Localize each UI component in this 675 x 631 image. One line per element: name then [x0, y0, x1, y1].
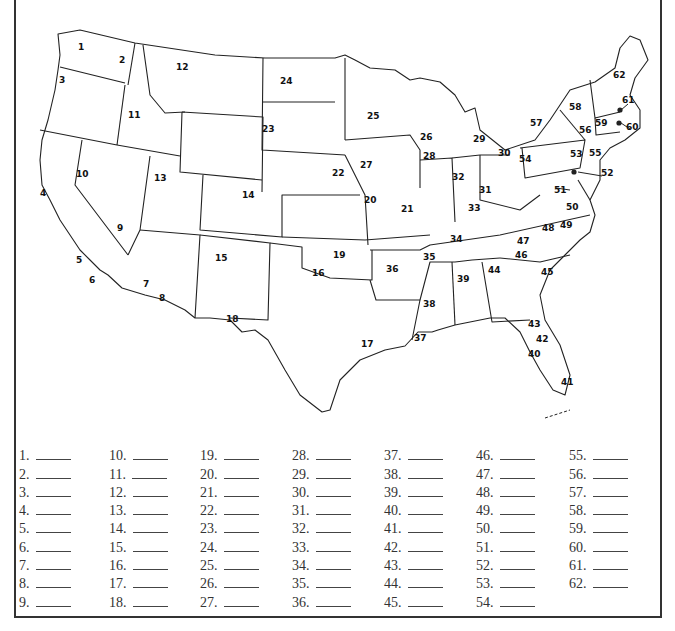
answer-blank[interactable]: [224, 495, 259, 497]
answer-blank[interactable]: [593, 531, 628, 533]
answer-blank[interactable]: [500, 495, 535, 497]
answer-blank[interactable]: [500, 513, 535, 515]
answer-number: 58.: [569, 503, 587, 519]
answer-blank[interactable]: [36, 568, 71, 570]
answer-blank[interactable]: [593, 568, 628, 570]
answer-number: 39.: [384, 485, 402, 501]
answer-blank[interactable]: [36, 550, 71, 552]
answer-blank[interactable]: [133, 605, 168, 607]
map-label: 24: [280, 77, 293, 86]
answer-blank[interactable]: [408, 495, 443, 497]
answer-blank[interactable]: [408, 550, 443, 552]
map-label: 50: [566, 203, 579, 212]
answer-row: 12.: [109, 483, 168, 501]
answer-blank[interactable]: [500, 458, 535, 460]
answer-row: 8.: [19, 574, 71, 592]
answer-blank[interactable]: [36, 586, 71, 588]
map-label: 20: [364, 196, 377, 205]
answer-row: 6.: [19, 537, 71, 555]
answer-blank[interactable]: [36, 513, 71, 515]
answer-number: 33.: [292, 540, 310, 556]
answer-blank[interactable]: [133, 531, 168, 533]
answer-blank[interactable]: [36, 495, 71, 497]
answer-row: 10.: [109, 446, 168, 464]
answer-blank[interactable]: [500, 531, 535, 533]
answer-blank[interactable]: [224, 458, 259, 460]
answer-number: 52.: [476, 558, 494, 574]
answer-blank[interactable]: [408, 568, 443, 570]
answer-blank[interactable]: [500, 605, 535, 607]
answer-number: 3.: [19, 485, 30, 501]
answer-row: 52.: [476, 556, 535, 574]
answer-blank[interactable]: [133, 495, 168, 497]
answer-blank[interactable]: [224, 568, 259, 570]
answer-blank[interactable]: [408, 458, 443, 460]
answer-blank[interactable]: [408, 477, 443, 479]
answer-blank[interactable]: [36, 605, 71, 607]
answer-blank[interactable]: [316, 513, 351, 515]
answer-blank[interactable]: [316, 477, 351, 479]
answer-blank[interactable]: [593, 477, 628, 479]
answer-blank[interactable]: [593, 586, 628, 588]
answer-blank[interactable]: [133, 458, 168, 460]
answer-row: 57.: [569, 483, 628, 501]
answer-blank[interactable]: [224, 477, 259, 479]
answer-number: 2.: [19, 467, 30, 483]
answer-number: 43.: [384, 558, 402, 574]
map-label: 27: [360, 161, 373, 170]
answer-blank[interactable]: [133, 586, 168, 588]
answer-blank[interactable]: [133, 568, 168, 570]
answer-blank[interactable]: [408, 531, 443, 533]
answer-blank[interactable]: [224, 513, 259, 515]
answer-number: 18.: [109, 595, 127, 611]
answer-key: 1.2.3.4.5.6.7.8.9.10.11.12.13.14.15.16.1…: [14, 446, 662, 596]
map-label: 43: [528, 320, 541, 329]
answer-blank[interactable]: [408, 586, 443, 588]
answer-blank[interactable]: [132, 477, 167, 479]
answer-blank[interactable]: [36, 458, 71, 460]
map-label: 58: [569, 103, 582, 112]
answer-blank[interactable]: [316, 495, 351, 497]
answer-blank[interactable]: [316, 568, 351, 570]
answer-blank[interactable]: [408, 513, 443, 515]
map-label: 57: [530, 119, 543, 128]
answer-blank[interactable]: [593, 495, 628, 497]
answer-blank[interactable]: [408, 605, 443, 607]
answer-blank[interactable]: [316, 531, 351, 533]
answer-blank[interactable]: [500, 550, 535, 552]
answer-blank[interactable]: [316, 605, 351, 607]
answer-blank[interactable]: [500, 477, 535, 479]
answer-number: 24.: [200, 540, 218, 556]
answer-column: 46.47.48.49.50.51.52.53.54.: [476, 446, 535, 611]
answer-row: 5.: [19, 519, 71, 537]
answer-blank[interactable]: [133, 513, 168, 515]
answer-number: 32.: [292, 521, 310, 537]
us-border: [40, 30, 648, 412]
answer-blank[interactable]: [224, 550, 259, 552]
answer-row: 7.: [19, 556, 71, 574]
answer-blank[interactable]: [593, 550, 628, 552]
answer-row: 43.: [384, 556, 443, 574]
answer-number: 47.: [476, 467, 494, 483]
answer-blank[interactable]: [500, 568, 535, 570]
answer-blank[interactable]: [593, 458, 628, 460]
answer-column: 55.56.57.58.59.60.61.62.: [569, 446, 628, 592]
answer-blank[interactable]: [224, 586, 259, 588]
answer-blank[interactable]: [500, 586, 535, 588]
answer-blank[interactable]: [133, 550, 168, 552]
answer-blank[interactable]: [36, 531, 71, 533]
answer-row: 23.: [200, 519, 259, 537]
answer-number: 16.: [109, 558, 127, 574]
map-label: 41: [561, 378, 574, 387]
answer-blank[interactable]: [36, 477, 71, 479]
answer-blank[interactable]: [224, 531, 259, 533]
answer-blank[interactable]: [316, 586, 351, 588]
answer-row: 41.: [384, 519, 443, 537]
answer-blank[interactable]: [316, 550, 351, 552]
map-label: 54: [519, 155, 532, 164]
answer-number: 53.: [476, 576, 494, 592]
answer-blank[interactable]: [224, 605, 259, 607]
answer-number: 56.: [569, 467, 587, 483]
answer-blank[interactable]: [593, 513, 628, 515]
answer-blank[interactable]: [316, 458, 351, 460]
